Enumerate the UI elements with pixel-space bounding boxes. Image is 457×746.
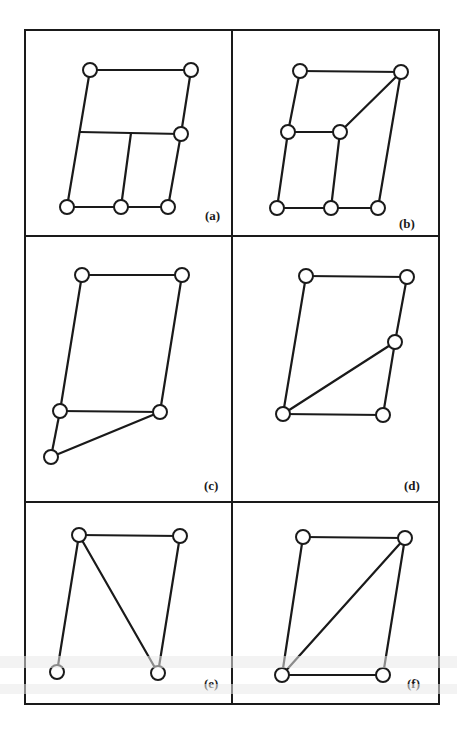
graph-edge xyxy=(57,535,79,672)
graph-edge xyxy=(60,275,82,411)
panel-label: (a) xyxy=(205,208,220,223)
panel-a: (a) xyxy=(25,30,232,236)
graph-node xyxy=(324,201,338,215)
graph-edge xyxy=(121,133,131,207)
panel-label: (b) xyxy=(399,216,415,231)
graph-edge xyxy=(288,71,300,132)
graph-panels-figure: (a)(b)(c)(d)(e)(f) xyxy=(0,0,457,746)
graph-edge xyxy=(383,342,395,415)
scan-artifact-band xyxy=(0,656,457,668)
panel-d: (d) xyxy=(232,236,439,502)
graph-node xyxy=(83,63,97,77)
graph-edge xyxy=(283,276,306,414)
graph-edge xyxy=(60,411,160,412)
panel-b: (b) xyxy=(232,30,439,236)
graph-edge xyxy=(277,132,288,208)
graph-edge xyxy=(283,414,383,415)
graph-edge xyxy=(79,535,158,673)
graph-node xyxy=(398,531,412,545)
graph-node xyxy=(270,201,284,215)
graph-node xyxy=(153,405,167,419)
graph-node xyxy=(75,268,89,282)
graph-node xyxy=(394,65,408,79)
graph-node xyxy=(276,407,290,421)
scan-artifact-band xyxy=(0,684,457,694)
graph-edge xyxy=(181,70,191,134)
graph-edge xyxy=(303,537,405,538)
graph-node xyxy=(299,269,313,283)
graph-node xyxy=(151,666,165,680)
graph-node xyxy=(400,270,414,284)
graph-node xyxy=(275,668,289,682)
panel-label: (d) xyxy=(404,478,420,493)
graph-node xyxy=(175,268,189,282)
graph-node xyxy=(388,335,402,349)
graph-node xyxy=(376,408,390,422)
graph-node xyxy=(53,404,67,418)
graph-edge xyxy=(160,275,182,412)
graph-edge xyxy=(168,134,181,207)
graph-node xyxy=(161,200,175,214)
graph-node xyxy=(173,529,187,543)
graph-node xyxy=(174,127,188,141)
graph-node xyxy=(281,125,295,139)
graph-node xyxy=(60,200,74,214)
graph-edge xyxy=(51,412,160,457)
graph-node xyxy=(72,528,86,542)
panel-f: (f) xyxy=(232,502,439,704)
graph-edge xyxy=(306,276,407,277)
panel-e: (e) xyxy=(25,502,232,704)
graph-edge xyxy=(395,277,407,342)
graph-node xyxy=(296,530,310,544)
graph-node xyxy=(371,201,385,215)
graph-node xyxy=(114,200,128,214)
graph-edge xyxy=(331,132,340,208)
graph-node xyxy=(44,450,58,464)
graph-edge xyxy=(300,71,401,72)
graph-node xyxy=(376,668,390,682)
panel-label: (c) xyxy=(204,478,218,493)
graph-edge xyxy=(67,70,90,207)
graph-edge xyxy=(283,342,395,414)
graph-node xyxy=(184,63,198,77)
panel-c: (c) xyxy=(25,236,232,502)
graph-node xyxy=(333,125,347,139)
graph-node xyxy=(293,64,307,78)
graph-edge xyxy=(158,536,180,673)
graph-edge xyxy=(79,535,180,536)
